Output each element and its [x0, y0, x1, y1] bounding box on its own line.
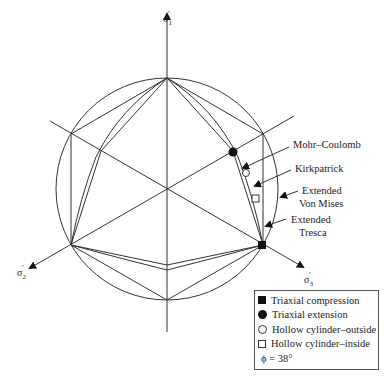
tresca-leader — [266, 219, 286, 226]
legend-label: Hollow cylinder–outside — [272, 324, 376, 335]
tresca-label-line1: Extended — [291, 214, 331, 225]
sigma1-label: σ1′ — [163, 10, 172, 27]
triaxial-compression-marker — [258, 241, 266, 249]
friction-angle-note: ϕ = 38° — [258, 351, 378, 366]
hollow-cylinder-inside-marker — [252, 195, 259, 202]
kirkpatrick-label: Kirkpatrick — [295, 163, 344, 174]
legend-label: Hollow cylinder–inside — [271, 338, 370, 349]
legend: Triaxial compression Triaxial extension … — [254, 290, 379, 370]
tresca-label-line2: Tresca — [299, 227, 327, 238]
legend-item-hollow-cylinder-inside: Hollow cylinder–inside — [258, 337, 378, 352]
sigma2-label: σ2′ — [17, 264, 26, 281]
legend-item-triaxial-extension: Triaxial extension — [258, 308, 378, 323]
mohr-coulomb-label: Mohr–Coulomb — [293, 139, 361, 150]
legend-label: Triaxial extension — [272, 309, 348, 320]
legend-label: Triaxial compression — [271, 295, 360, 306]
filled-square-icon — [258, 296, 266, 304]
legend-item-triaxial-compression: Triaxial compression — [258, 293, 378, 308]
von-mises-label-line2: Von Mises — [299, 198, 343, 209]
open-circle-icon — [258, 325, 267, 334]
kirkpatrick-leader — [255, 170, 291, 186]
open-square-icon — [258, 340, 266, 348]
von-mises-label-line1: Extended — [302, 185, 342, 196]
filled-circle-icon — [258, 310, 267, 319]
hollow-cylinder-outside-marker — [243, 170, 250, 177]
mohr-coulomb-leader — [243, 147, 289, 168]
sigma3-label: σ3′ — [304, 271, 313, 288]
sigma2-axis — [30, 116, 294, 268]
triaxial-extension-marker — [229, 148, 238, 157]
von-mises-leader — [281, 191, 298, 197]
legend-item-hollow-cylinder-outside: Hollow cylinder–outside — [258, 322, 378, 337]
